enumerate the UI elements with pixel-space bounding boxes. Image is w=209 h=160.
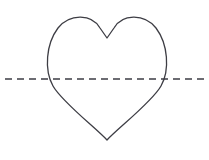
heart-symmetry-figure bbox=[0, 0, 209, 160]
figure-background bbox=[0, 0, 209, 160]
figure-canvas bbox=[0, 0, 209, 160]
